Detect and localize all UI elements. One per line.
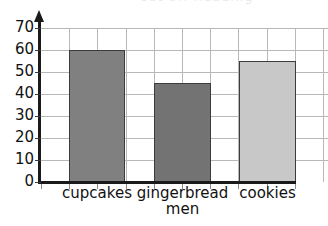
y-axis-tick-label: 40 [0,86,34,101]
gridline-vertical [126,28,127,182]
y-axis-tick-label: 50 [0,64,34,79]
y-axis-tick-mark [35,116,41,117]
x-axis-category-label: cookies [208,186,328,202]
bar [154,83,211,182]
cropped-title-text: cut off heading [140,0,253,4]
y-axis-tick-label: 60 [0,42,34,57]
bar-chart: cut off heading 010203040506070 cupcakes… [0,0,328,226]
y-axis-tick-mark [35,160,41,161]
y-axis-tick-mark [35,94,41,95]
cropped-title-remnant: cut off heading [0,0,328,9]
x-axis-category-labels: cupcakesgingerbread mencookies [0,186,328,226]
y-axis-tick-mark [35,50,41,51]
y-axis-tick-mark [35,28,41,29]
bar [239,61,296,182]
plot-area [41,28,328,182]
y-axis-tick-label: 20 [0,130,34,145]
y-axis-tick-mark [35,182,41,183]
gridline-vertical [323,28,324,182]
y-axis-tick-label: 10 [0,152,34,167]
y-axis-tick-label: 70 [0,20,34,35]
y-axis-tick-mark [35,138,41,139]
gridline-horizontal [41,28,328,29]
y-axis-arrow-icon [34,10,44,22]
y-axis-tick-label: 30 [0,108,34,123]
y-axis-tick-mark [35,72,41,73]
bar [69,50,125,182]
